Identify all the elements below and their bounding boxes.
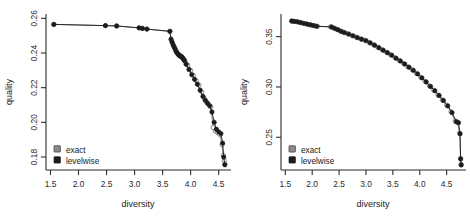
data-point-levelwise — [52, 22, 56, 26]
x-tick-label: 2.5 — [333, 179, 345, 189]
x-axis-title-left: diversity — [121, 199, 155, 209]
y-tick-label: 0.30 — [264, 78, 274, 95]
x-tick-label: 3.5 — [387, 179, 399, 189]
x-ticks-right: 1.52.02.53.03.54.04.5 — [279, 170, 452, 189]
data-point-levelwise — [342, 30, 346, 34]
x-tick-label: 2.5 — [101, 179, 113, 189]
figure-container: 0.180.200.220.240.26 1.52.02.53.03.54.04… — [0, 0, 470, 224]
data-point-levelwise — [347, 32, 351, 36]
data-point-levelwise — [433, 89, 437, 93]
data-point-levelwise — [368, 41, 372, 45]
data-point-levelwise — [140, 26, 144, 30]
data-point-levelwise — [351, 34, 355, 38]
data-point-levelwise — [355, 35, 359, 39]
data-point-levelwise — [314, 24, 318, 28]
data-point-levelwise — [459, 163, 463, 167]
y-ticks-left: 0.180.200.220.240.26 — [29, 10, 46, 165]
data-point-levelwise — [415, 72, 419, 76]
x-tick-label: 1.5 — [45, 179, 57, 189]
x-ticks-left: 1.52.02.53.03.54.04.5 — [45, 170, 225, 189]
data-point-levelwise — [195, 82, 199, 86]
data-point-levelwise — [458, 157, 462, 161]
x-tick-label: 1.5 — [279, 179, 291, 189]
data-point-levelwise — [372, 43, 376, 47]
data-point-levelwise — [377, 46, 381, 50]
data-point-levelwise — [456, 121, 460, 125]
legend-swatch-levelwise — [54, 157, 60, 163]
legend-swatch-exact — [54, 146, 60, 152]
data-point-levelwise — [145, 27, 149, 31]
data-point-levelwise — [420, 76, 424, 80]
data-point-levelwise — [364, 38, 368, 42]
data-point-levelwise — [394, 56, 398, 60]
data-point-levelwise — [192, 77, 196, 81]
plot-left-svg: 0.180.200.220.240.26 1.52.02.53.03.54.04… — [0, 0, 235, 224]
chart-panel-right: 0.250.300.35 1.52.02.53.03.54.04.5 exact… — [235, 0, 470, 224]
legend-right: exactlevelwise — [289, 146, 335, 166]
data-point-levelwise — [385, 51, 389, 55]
data-point-levelwise — [223, 163, 227, 167]
legend-label-exact: exact — [66, 146, 86, 155]
x-tick-label: 4.0 — [185, 179, 197, 189]
data-point-levelwise — [103, 23, 107, 27]
chart-panel-left: 0.180.200.220.240.26 1.52.02.53.03.54.04… — [0, 0, 235, 224]
y-tick-label: 0.26 — [29, 10, 39, 27]
data-point-levelwise — [210, 110, 214, 114]
data-point-levelwise — [359, 37, 363, 41]
legend-label-levelwise: levelwise — [66, 157, 100, 166]
data-point-levelwise — [187, 67, 191, 71]
legend-label-exact: exact — [301, 146, 321, 155]
plot-right-svg: 0.250.300.35 1.52.02.53.03.54.04.5 exact… — [235, 0, 470, 224]
y-ticks-right: 0.250.300.35 — [264, 28, 281, 145]
data-point-levelwise — [208, 104, 212, 108]
data-point-levelwise — [411, 68, 415, 72]
data-point-levelwise — [190, 72, 194, 76]
y-tick-label: 0.20 — [29, 114, 39, 131]
x-tick-label: 3.0 — [129, 179, 141, 189]
data-point-levelwise — [198, 88, 202, 92]
legend-left: exactlevelwise — [54, 146, 100, 166]
data-point-levelwise — [381, 48, 385, 52]
x-tick-label: 3.0 — [360, 179, 372, 189]
x-tick-label: 4.5 — [213, 179, 225, 189]
data-point-levelwise — [114, 24, 118, 28]
data-point-levelwise — [450, 110, 454, 114]
legend-label-levelwise: levelwise — [301, 157, 335, 166]
data-point-levelwise — [437, 93, 441, 97]
x-tick-label: 4.5 — [441, 179, 453, 189]
data-point-levelwise — [424, 80, 428, 84]
data-point-levelwise — [407, 65, 411, 69]
data-point-levelwise — [184, 62, 188, 66]
data-point-levelwise — [168, 29, 172, 33]
data-point-levelwise — [402, 62, 406, 66]
series-line-level — [54, 24, 225, 164]
data-point-levelwise — [390, 53, 394, 57]
data-point-levelwise — [220, 141, 224, 145]
y-tick-label: 0.25 — [264, 129, 274, 146]
data-point-levelwise — [398, 59, 402, 63]
x-tick-label: 2.0 — [73, 179, 85, 189]
y-tick-label: 0.24 — [29, 45, 39, 62]
y-axis-title-left: quality — [4, 78, 14, 105]
data-point-levelwise — [219, 131, 223, 135]
y-tick-label: 0.18 — [29, 149, 39, 166]
legend-swatch-levelwise — [289, 157, 295, 163]
y-tick-label: 0.22 — [29, 79, 39, 96]
data-point-levelwise — [212, 120, 216, 124]
legend-swatch-exact — [289, 146, 295, 152]
data-point-levelwise — [446, 104, 450, 108]
x-axis-title-right: diversity — [356, 199, 390, 209]
x-tick-label: 2.0 — [306, 179, 318, 189]
data-point-levelwise — [458, 132, 462, 136]
series-line-exact — [54, 24, 225, 164]
data-point-levelwise — [222, 155, 226, 159]
y-axis-title-right: quality — [239, 78, 249, 105]
data-point-levelwise — [441, 98, 445, 102]
data-point-levelwise — [428, 84, 432, 88]
y-tick-label: 0.35 — [264, 28, 274, 45]
x-tick-label: 3.5 — [157, 179, 169, 189]
x-tick-label: 4.0 — [414, 179, 426, 189]
